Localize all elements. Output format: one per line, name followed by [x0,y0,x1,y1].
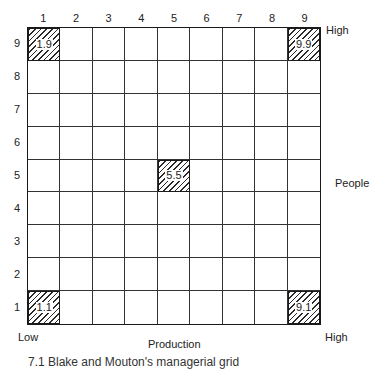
grid-cell-4-7 [125,94,157,127]
managerial-grid: 1.99.95.51.19.1 [27,27,321,325]
grid-cell-1-9: 1.9 [28,28,60,61]
grid-cell-9-3 [288,225,320,258]
grid-cell-8-6 [255,127,287,160]
grid-cell-8-9 [255,28,287,61]
grid-cell-6-6 [190,127,222,160]
y-axis-high-label: High [326,24,349,36]
grid-cell-4-5 [125,160,157,193]
y-tick: 7 [6,103,20,115]
grid-cell-6-3 [190,225,222,258]
grid-cell-7-7 [223,94,255,127]
grid-cell-5-7 [158,94,190,127]
x-axis-label: Production [148,338,201,350]
grid-cell-4-4 [125,192,157,225]
grid-cell-6-2 [190,258,222,291]
cell-value: 5.5 [165,170,182,181]
x-axis-high-label: High [325,331,348,343]
grid-cell-3-9 [93,28,125,61]
y-tick: 4 [6,202,20,214]
grid-cell-6-4 [190,192,222,225]
x-tick: 5 [158,12,191,24]
grid-cell-9-2 [288,258,320,291]
grid-cell-1-3 [28,225,60,258]
grid-cell-2-4 [60,192,92,225]
grid-cell-9-5 [288,160,320,193]
grid-cell-5-8 [158,61,190,94]
grid-cell-8-8 [255,61,287,94]
grid-cell-5-2 [158,258,190,291]
grid-cell-9-7 [288,94,320,127]
grid-cell-2-5 [60,160,92,193]
grid-cell-9-8 [288,61,320,94]
x-axis-low-label: Low [18,331,38,343]
grid-cell-6-9 [190,28,222,61]
grid-cell-6-5 [190,160,222,193]
cell-value: 1.1 [36,302,53,313]
y-axis-label: People [335,177,369,189]
grid-cell-3-8 [93,61,125,94]
grid-cell-1-2 [28,258,60,291]
grid-cell-3-1 [93,291,125,324]
grid-cell-9-6 [288,127,320,160]
grid-cell-2-6 [60,127,92,160]
grid-cell-6-7 [190,94,222,127]
grid-cell-7-2 [223,258,255,291]
grid-cell-2-9 [60,28,92,61]
grid-cell-3-7 [93,94,125,127]
grid-cell-9-1: 9.1 [288,291,320,324]
grid-cell-4-9 [125,28,157,61]
grid-cell-5-5: 5.5 [158,160,190,193]
grid-cell-7-1 [223,291,255,324]
grid-cell-6-1 [190,291,222,324]
x-tick: 6 [190,12,223,24]
grid-cell-2-3 [60,225,92,258]
grid-cell-9-4 [288,192,320,225]
y-tick: 2 [6,268,20,280]
grid-cell-8-4 [255,192,287,225]
x-tick: 3 [92,12,125,24]
grid-cell-2-2 [60,258,92,291]
y-tick: 9 [6,37,20,49]
cell-value: 9.1 [295,302,312,313]
x-tick: 1 [27,12,60,24]
y-tick: 1 [6,301,20,313]
x-tick: 4 [125,12,158,24]
grid-cell-1-8 [28,61,60,94]
y-tick: 5 [6,169,20,181]
grid-cell-3-2 [93,258,125,291]
grid-cell-5-3 [158,225,190,258]
grid-cell-7-3 [223,225,255,258]
cell-value: 1.9 [36,39,53,50]
grid-cell-4-3 [125,225,157,258]
y-tick: 8 [6,70,20,82]
grid-cell-8-3 [255,225,287,258]
grid-cell-6-8 [190,61,222,94]
grid-cell-5-6 [158,127,190,160]
grid-cell-1-6 [28,127,60,160]
grid-cell-7-9 [223,28,255,61]
grid-cell-1-1: 1.1 [28,291,60,324]
grid-cell-5-9 [158,28,190,61]
grid-cell-7-4 [223,192,255,225]
grid-cell-5-1 [158,291,190,324]
grid-cell-8-1 [255,291,287,324]
grid-cell-7-6 [223,127,255,160]
grid-cell-1-5 [28,160,60,193]
y-tick: 6 [6,136,20,148]
figure-caption: 7.1 Blake and Mouton's managerial grid [28,355,239,369]
grid-cell-8-2 [255,258,287,291]
grid-cell-5-4 [158,192,190,225]
grid-cell-9-9: 9.9 [288,28,320,61]
grid-cell-4-8 [125,61,157,94]
grid-cell-3-3 [93,225,125,258]
x-tick: 7 [223,12,256,24]
x-tick: 2 [60,12,93,24]
grid-cell-3-5 [93,160,125,193]
x-tick: 8 [256,12,289,24]
grid-cell-4-6 [125,127,157,160]
cell-value: 9.9 [295,39,312,50]
grid-cell-7-8 [223,61,255,94]
grid-cell-3-6 [93,127,125,160]
grid-cell-2-8 [60,61,92,94]
y-tick: 3 [6,235,20,247]
